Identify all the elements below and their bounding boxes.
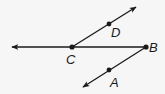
point-b xyxy=(143,44,148,49)
label-c: C xyxy=(66,52,76,67)
ray-cd-line xyxy=(72,7,136,47)
label-d: D xyxy=(111,25,120,40)
point-c xyxy=(69,44,74,49)
label-b: B xyxy=(149,40,158,55)
geometry-diagram: C D B A xyxy=(0,0,165,94)
diagram-svg: C D B A xyxy=(0,0,165,94)
point-a xyxy=(107,68,112,73)
label-a: A xyxy=(109,75,119,90)
